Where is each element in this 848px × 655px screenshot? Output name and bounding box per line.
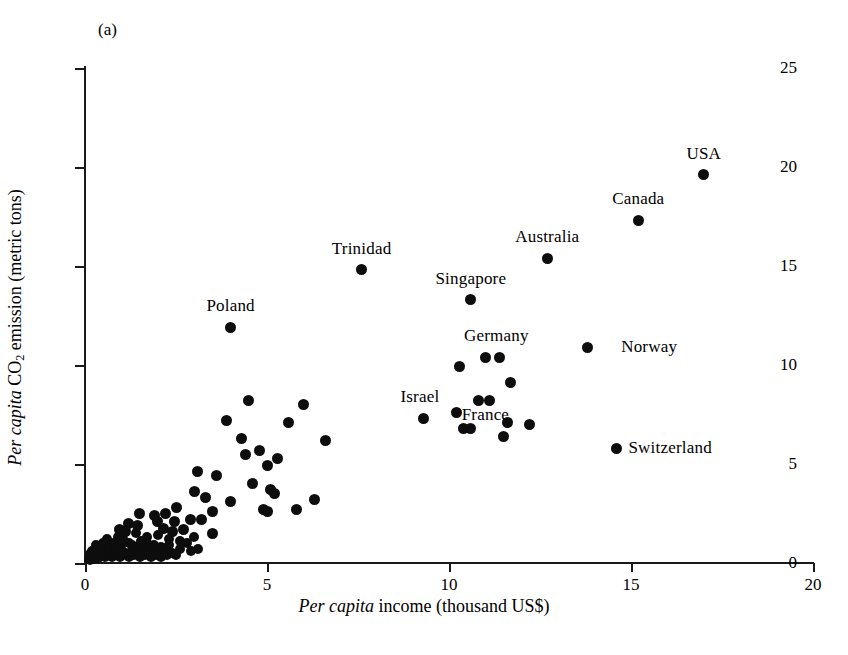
annotation-norway: Norway: [621, 337, 677, 357]
scatter-point: [454, 361, 465, 372]
y-tick-label: 5: [789, 454, 798, 474]
scatter-point: [254, 445, 265, 456]
y-axis-title-plain-post: emission (metric tons): [5, 189, 25, 354]
annotation-singapore: Singapore: [435, 269, 506, 289]
scatter-point: [611, 443, 622, 454]
scatter-point: [192, 466, 203, 477]
chart-figure: (a) 0510152025 05101520 USACanadaAustral…: [0, 0, 848, 655]
y-axis-title-italic: Per capita: [5, 390, 25, 465]
scatter-point: [542, 253, 553, 264]
x-axis-title-plain: income (thousand US$): [374, 596, 549, 616]
scatter-point: [291, 504, 302, 515]
scatter-point: [465, 294, 476, 305]
annotation-poland: Poland: [206, 296, 254, 316]
x-tick-mark: [449, 563, 451, 572]
y-tick-mark: [75, 365, 84, 367]
annotation-israel: Israel: [400, 387, 439, 407]
scatter-point: [269, 488, 280, 499]
scatter-point: [480, 352, 491, 363]
annotation-switzerland: Switzerland: [628, 438, 711, 458]
scatter-point: [356, 264, 367, 275]
x-tick-mark: [267, 563, 269, 572]
y-tick-mark: [75, 464, 84, 466]
plot-area: 0510152025 05101520 USACanadaAustraliaTr…: [85, 68, 813, 563]
y-tick-mark: [75, 68, 84, 70]
scatter-point: [169, 516, 180, 527]
annotation-canada: Canada: [612, 189, 664, 209]
x-tick-label: 0: [81, 575, 90, 595]
scatter-point: [240, 449, 251, 460]
scatter-point: [144, 549, 154, 559]
scatter-point: [298, 399, 309, 410]
scatter-point: [196, 514, 207, 525]
scatter-point: [320, 435, 331, 446]
scatter-point: [505, 377, 516, 388]
scatter-point: [225, 496, 236, 507]
scatter-point: [211, 470, 222, 481]
scatter-point: [200, 492, 211, 503]
y-tick-mark: [75, 167, 84, 169]
scatter-point: [498, 431, 509, 442]
y-tick-label: 25: [780, 58, 797, 78]
scatter-point: [633, 215, 644, 226]
scatter-point: [247, 478, 258, 489]
scatter-point: [582, 342, 593, 353]
annotation-usa: USA: [686, 144, 721, 164]
scatter-point: [207, 506, 218, 517]
scatter-point: [418, 413, 429, 424]
y-tick-mark: [75, 266, 84, 268]
scatter-point: [698, 169, 709, 180]
y-tick-label: 0: [789, 553, 798, 573]
panel-label: (a): [98, 20, 117, 40]
x-tick-label: 10: [441, 575, 458, 595]
x-axis-title-italic: Per capita: [299, 596, 374, 616]
y-tick-label: 15: [780, 256, 797, 276]
scatter-point: [132, 520, 143, 531]
scatter-point: [93, 553, 103, 563]
y-tick-label: 20: [780, 157, 797, 177]
scatter-point: [524, 419, 535, 430]
x-tick-label: 5: [263, 575, 272, 595]
scatter-point: [126, 547, 136, 557]
annotation-germany: Germany: [464, 326, 529, 346]
x-tick-mark: [813, 563, 815, 572]
scatter-point: [236, 433, 247, 444]
scatter-point: [171, 502, 182, 513]
scatter-point: [494, 352, 505, 363]
scatter-point: [309, 494, 320, 505]
scatter-point: [262, 506, 273, 517]
y-axis-title-plain-pre: CO: [5, 361, 25, 391]
x-tick-mark: [631, 563, 633, 572]
x-tick-label: 15: [623, 575, 640, 595]
x-axis-title: Per capita income (thousand US$): [0, 596, 848, 617]
scatter-point: [272, 453, 283, 464]
scatter-point: [149, 510, 160, 521]
scatter-point: [178, 524, 189, 535]
scatter-point: [134, 508, 145, 519]
scatter-point: [158, 523, 169, 534]
scatter-point: [207, 528, 218, 539]
scatter-point: [451, 407, 462, 418]
scatter-point: [171, 550, 181, 560]
scatter-point: [262, 460, 273, 471]
scatter-point: [185, 514, 196, 525]
y-tick-label: 10: [780, 355, 797, 375]
annotation-france: France: [462, 405, 509, 425]
scatter-point: [243, 395, 254, 406]
y-axis-title-subscript: 2: [13, 355, 27, 361]
annotation-australia: Australia: [515, 227, 579, 247]
y-axis-title: Per capita CO2 emission (metric tons): [0, 0, 30, 655]
scatter-point: [193, 544, 203, 554]
scatter-point: [221, 415, 232, 426]
scatter-point: [189, 486, 200, 497]
scatter-point: [225, 322, 236, 333]
scatter-point: [114, 524, 125, 535]
y-tick-mark: [75, 563, 84, 565]
x-tick-label: 20: [805, 575, 822, 595]
scatter-point: [283, 417, 294, 428]
annotation-trinidad: Trinidad: [332, 239, 392, 259]
